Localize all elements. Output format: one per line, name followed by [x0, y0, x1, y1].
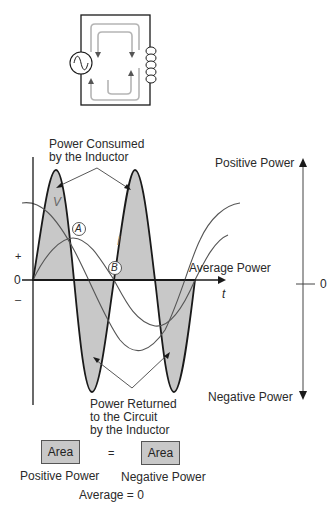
power-consumed-label-1: Power Consumed: [49, 137, 144, 151]
positive-power-caption: Positive Power: [20, 469, 99, 483]
negative-power-caption: Negative Power: [121, 470, 206, 484]
average-equals-zero: Average = 0: [79, 488, 144, 502]
voltage-label: V: [53, 195, 61, 209]
marker-b-label: B: [111, 261, 118, 275]
positive-area-box: Area: [41, 440, 80, 464]
returned-callout-arrowheads: [93, 352, 170, 363]
arrow-down-icon: [299, 391, 307, 400]
inductor-coil-icon: [145, 47, 156, 83]
zero-label: 0: [14, 273, 21, 287]
power-consumed-label-2: by the Inductor: [49, 150, 128, 164]
ac-source-icon: [70, 52, 92, 74]
negative-area-box: Area: [141, 441, 180, 465]
consumed-callout-lines: [59, 168, 128, 188]
time-axis-label: t: [222, 287, 225, 301]
marker-a-label: A: [75, 222, 82, 236]
current-direction-arrowheads: [88, 52, 135, 84]
x-axis-arrow-icon: [218, 276, 226, 284]
plus-label: +: [15, 249, 21, 263]
power-axis: [296, 158, 315, 400]
power-returned-label-1: Power Returned: [90, 397, 177, 411]
average-power-label: Average Power: [189, 261, 271, 275]
negative-power-label: Negative Power: [208, 390, 293, 404]
circuit-schematic: [70, 15, 156, 105]
power-returned-label-2: to the Circuit: [90, 410, 157, 424]
returned-callout-lines: [96, 355, 167, 388]
current-loop-arrows-icon: [91, 24, 139, 100]
positive-power-label: Positive Power: [215, 156, 294, 170]
equals-sign: =: [108, 446, 114, 460]
minus-label: –: [15, 292, 21, 306]
power-returned-label-3: by the Inductor: [90, 423, 169, 437]
power-zero-label: 0: [320, 277, 327, 291]
current-label: I: [117, 234, 120, 248]
arrow-up-icon: [299, 158, 307, 167]
